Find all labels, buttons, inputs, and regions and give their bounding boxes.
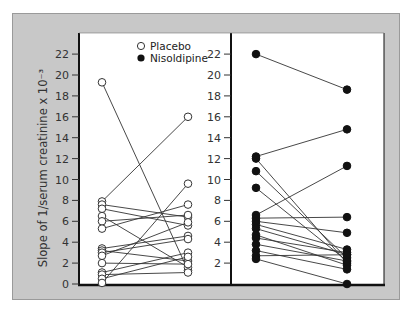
filled-circle-marker bbox=[252, 167, 260, 175]
open-circle-marker bbox=[184, 113, 192, 121]
y-tick-label: 8 bbox=[214, 194, 221, 207]
filled-circle-icon bbox=[137, 54, 144, 61]
open-circle-marker bbox=[184, 211, 192, 219]
y-tick-label: 22 bbox=[207, 48, 221, 61]
y-tick-label: 18 bbox=[207, 90, 221, 103]
open-circle-icon bbox=[137, 42, 144, 49]
open-circle-marker bbox=[98, 252, 106, 260]
y-tick-label: 10 bbox=[207, 174, 221, 187]
legend-nisoldipine: Nisoldipine bbox=[150, 52, 208, 64]
y-tick-label: 10 bbox=[55, 174, 69, 187]
y-tick-label: 12 bbox=[207, 153, 221, 166]
open-circle-marker bbox=[98, 259, 106, 267]
y-tick-label: 12 bbox=[55, 153, 69, 166]
filled-circle-marker bbox=[343, 280, 351, 288]
chart-svg: 0246810121416182022246810121416182022 Pl… bbox=[0, 0, 413, 318]
y-tick-label: 20 bbox=[55, 69, 69, 82]
filled-circle-marker bbox=[343, 162, 351, 170]
y-tick-label: 8 bbox=[62, 194, 69, 207]
open-circle-marker bbox=[98, 218, 106, 226]
filled-circle-marker bbox=[343, 126, 351, 134]
y-tick-label: 20 bbox=[207, 69, 221, 82]
open-circle-marker bbox=[184, 180, 192, 188]
y-tick-label: 6 bbox=[214, 215, 221, 228]
open-circle-marker bbox=[184, 219, 192, 227]
open-circle-marker bbox=[184, 260, 192, 268]
y-tick-label: 14 bbox=[207, 132, 221, 145]
filled-circle-marker bbox=[252, 155, 260, 163]
open-circle-marker bbox=[184, 201, 192, 209]
filled-circle-marker bbox=[343, 213, 351, 221]
y-tick-label: 18 bbox=[55, 90, 69, 103]
filled-circle-marker bbox=[343, 266, 351, 274]
filled-circle-marker bbox=[252, 255, 260, 263]
open-circle-marker bbox=[184, 269, 192, 277]
legend-placebo: Placebo bbox=[150, 40, 191, 52]
filled-circle-marker bbox=[343, 251, 351, 259]
y-tick-label: 4 bbox=[62, 236, 69, 249]
filled-circle-marker bbox=[343, 86, 351, 94]
y-tick-label: 6 bbox=[62, 215, 69, 228]
y-tick-label: 16 bbox=[55, 111, 69, 124]
y-tick-label: 4 bbox=[214, 236, 221, 249]
y-tick-label: 16 bbox=[207, 111, 221, 124]
open-circle-marker bbox=[98, 79, 106, 87]
y-tick-label: 22 bbox=[55, 48, 69, 61]
y-tick-label: 14 bbox=[55, 132, 69, 145]
filled-circle-marker bbox=[343, 229, 351, 237]
open-circle-marker bbox=[98, 205, 106, 213]
open-circle-marker bbox=[98, 279, 106, 287]
y-tick-label: 0 bbox=[62, 278, 69, 291]
open-circle-marker bbox=[184, 253, 192, 261]
y-tick-label: 2 bbox=[62, 257, 69, 270]
open-circle-marker bbox=[184, 235, 192, 243]
filled-circle-marker bbox=[252, 50, 260, 58]
filled-circle-marker bbox=[252, 184, 260, 192]
open-circle-marker bbox=[98, 225, 106, 233]
y-axis-label: Slope of 1/serum creatinine x 10⁻³ bbox=[36, 68, 50, 267]
y-tick-label: 2 bbox=[214, 257, 221, 270]
